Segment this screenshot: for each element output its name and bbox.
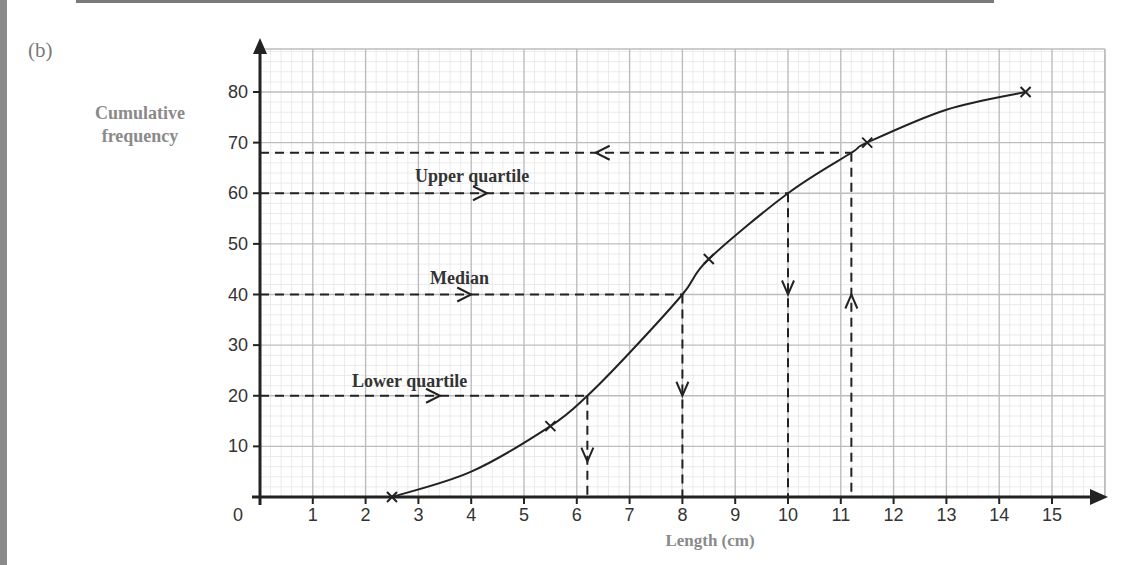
svg-text:20: 20 bbox=[228, 386, 248, 406]
svg-text:0: 0 bbox=[233, 505, 243, 525]
lower-quartile-label: Lower quartile bbox=[352, 371, 467, 391]
median-label: Median bbox=[430, 268, 489, 288]
svg-text:14: 14 bbox=[989, 505, 1009, 525]
svg-text:5: 5 bbox=[519, 505, 529, 525]
svg-text:12: 12 bbox=[884, 505, 904, 525]
quartile-guide-lines bbox=[260, 146, 857, 497]
svg-text:10: 10 bbox=[228, 436, 248, 456]
svg-text:70: 70 bbox=[228, 133, 248, 153]
svg-text:6: 6 bbox=[572, 505, 582, 525]
svg-text:13: 13 bbox=[936, 505, 956, 525]
svg-text:2: 2 bbox=[361, 505, 371, 525]
svg-text:3: 3 bbox=[413, 505, 423, 525]
svg-text:9: 9 bbox=[730, 505, 740, 525]
cumulative-frequency-chart: 01234567891011121314151020304050607080 L… bbox=[0, 0, 1132, 565]
svg-text:50: 50 bbox=[228, 234, 248, 254]
svg-text:11: 11 bbox=[831, 505, 850, 525]
svg-text:30: 30 bbox=[228, 335, 248, 355]
svg-text:1: 1 bbox=[308, 505, 318, 525]
svg-text:10: 10 bbox=[778, 505, 798, 525]
svg-text:8: 8 bbox=[677, 505, 687, 525]
upper-quartile-label: Upper quartile bbox=[415, 166, 529, 186]
svg-text:40: 40 bbox=[228, 285, 248, 305]
svg-text:15: 15 bbox=[1042, 505, 1062, 525]
svg-text:4: 4 bbox=[466, 505, 476, 525]
tick-labels: 01234567891011121314151020304050607080 bbox=[228, 82, 1062, 525]
svg-text:7: 7 bbox=[625, 505, 635, 525]
axes bbox=[252, 38, 1108, 505]
svg-text:60: 60 bbox=[228, 183, 248, 203]
svg-text:80: 80 bbox=[228, 82, 248, 102]
